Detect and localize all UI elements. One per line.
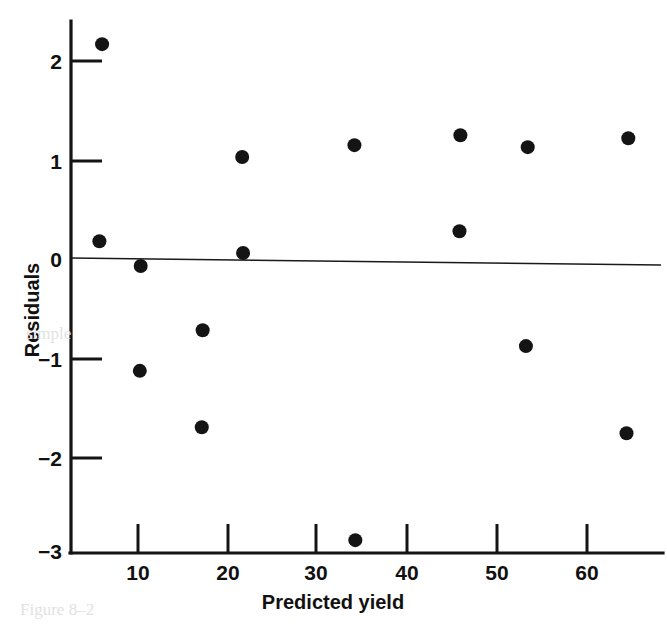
data-point <box>92 234 106 248</box>
data-point <box>347 138 361 152</box>
plot-canvas <box>0 0 667 633</box>
data-point <box>621 131 635 145</box>
data-point <box>452 224 466 238</box>
data-point <box>133 364 147 378</box>
x-tick-label-50: 50 <box>485 562 508 583</box>
data-point <box>95 37 109 51</box>
bleed-text: simple <box>26 324 71 344</box>
x-tick-label-40: 40 <box>395 562 418 583</box>
data-point <box>196 323 210 337</box>
zero-residual-line <box>71 258 661 265</box>
residual-plot-figure: 2 1 0 −1 −2 −3 10 20 30 40 50 60 Predict… <box>0 0 667 633</box>
data-point <box>348 533 362 547</box>
x-tick-label-10: 10 <box>126 562 149 583</box>
data-point <box>235 150 249 164</box>
y-tick-label-2: 2 <box>50 51 62 72</box>
y-tick-label-1: 1 <box>50 151 62 172</box>
x-axis-title: Predicted yield <box>262 592 404 612</box>
x-tick-label-20: 20 <box>216 562 239 583</box>
y-tick-label-minus-2: −2 <box>38 448 62 469</box>
scatter-points-layer <box>92 37 635 547</box>
data-point <box>521 140 535 154</box>
x-tick-label-30: 30 <box>304 562 327 583</box>
data-point <box>134 259 148 273</box>
y-tick-label-0: 0 <box>50 249 62 270</box>
data-point <box>236 246 250 260</box>
data-point <box>195 420 209 434</box>
x-tick-label-60: 60 <box>575 562 598 583</box>
data-point <box>519 339 533 353</box>
x-axis-ticks <box>138 524 587 553</box>
bleed-text: Figure 8–2 <box>20 600 94 620</box>
data-point <box>453 128 467 142</box>
y-tick-label-minus-3: −3 <box>38 541 62 562</box>
y-axis-ticks <box>71 61 102 458</box>
data-point <box>620 426 634 440</box>
